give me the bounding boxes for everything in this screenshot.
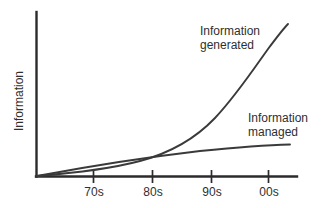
annotation-managed-line2: managed xyxy=(248,125,308,139)
series-line-information-managed xyxy=(37,145,290,177)
chart-plot-area xyxy=(0,0,323,208)
y-axis-label: Information xyxy=(13,71,25,131)
annotation-generated-line1: Information xyxy=(200,24,260,38)
annotation-information-managed: Information managed xyxy=(248,111,308,139)
x-tick-label-00s: 00s xyxy=(253,186,285,198)
annotation-information-generated: Information generated xyxy=(200,24,260,52)
x-tick-label-90s: 90s xyxy=(196,186,228,198)
annotation-managed-line1: Information xyxy=(248,111,308,125)
x-tick-label-70s: 70s xyxy=(78,186,110,198)
annotation-generated-line2: generated xyxy=(200,38,260,52)
y-axis-label-container: Information xyxy=(11,55,27,147)
x-tick-label-80s: 80s xyxy=(137,186,169,198)
chart-figure: Information 70s 80s 90s 00s Information … xyxy=(0,0,323,208)
